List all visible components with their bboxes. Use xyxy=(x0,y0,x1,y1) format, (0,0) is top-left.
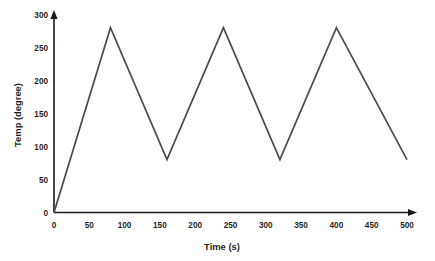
x-tick-label: 150 xyxy=(153,221,167,230)
y-tick-label: 300 xyxy=(34,11,48,20)
y-axis-title: Temp (degree) xyxy=(12,83,23,147)
x-tick-labels: 050100150200250300350400450500 xyxy=(52,221,415,230)
series-line-temperature xyxy=(54,28,407,213)
x-tick-label: 100 xyxy=(118,221,132,230)
x-tick-label: 0 xyxy=(52,221,57,230)
x-tick-label: 500 xyxy=(400,221,414,230)
y-tick-labels: 050100150200250300 xyxy=(34,11,48,218)
x-tick-label: 200 xyxy=(188,221,202,230)
y-tick-label: 0 xyxy=(43,209,48,218)
x-axis-arrow-icon xyxy=(408,209,417,216)
x-tick-label: 400 xyxy=(330,221,344,230)
x-tick-label: 450 xyxy=(365,221,379,230)
y-axis-arrow-icon xyxy=(50,10,57,19)
y-tick-label: 150 xyxy=(34,110,48,119)
x-axis-title: Time (s) xyxy=(204,241,240,252)
x-tick-label: 350 xyxy=(294,221,308,230)
y-tick-label: 200 xyxy=(34,77,48,86)
chart-container: 050100150200250300 050100150200250300350… xyxy=(0,0,435,261)
y-tick-label: 250 xyxy=(34,44,48,53)
x-tick-label: 300 xyxy=(259,221,273,230)
x-tick-label: 50 xyxy=(85,221,95,230)
x-tick-label: 250 xyxy=(224,221,238,230)
temperature-time-line-chart: 050100150200250300 050100150200250300350… xyxy=(0,0,435,261)
y-tick-label: 50 xyxy=(39,176,49,185)
y-tick-label: 100 xyxy=(34,143,48,152)
